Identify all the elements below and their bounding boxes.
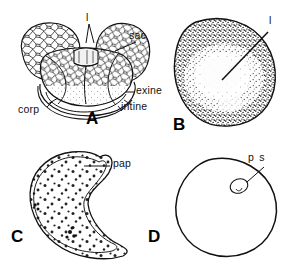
panel-d-drawing: [176, 158, 277, 256]
panel-letter-c: C: [11, 228, 23, 245]
panel-b-label-l: l: [269, 15, 272, 26]
panel-letter-b: B: [173, 116, 185, 133]
panel-letter-d: D: [148, 228, 160, 245]
panel-a-label-corp: corp: [18, 104, 39, 115]
panel-b-drawing: [168, 10, 288, 136]
panel-a-label-l: l: [86, 12, 89, 23]
panel-a-label-exine: exine: [136, 85, 162, 96]
panel-d-label-ps: p s: [248, 152, 266, 163]
panel-a-label-intine: intine: [121, 101, 147, 112]
pollen-morphology-figure: l sac exine intine corp A l B pap C p s …: [0, 0, 295, 267]
panel-a-label-sac: sac: [129, 30, 146, 41]
panel-letter-a: A: [86, 110, 98, 127]
panel-c-label-pap: pap: [113, 158, 131, 169]
